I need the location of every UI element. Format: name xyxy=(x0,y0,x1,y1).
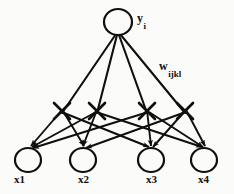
input-node-x1 xyxy=(15,148,41,172)
weight-subscript: ijkl xyxy=(168,69,181,79)
input-node-x4 xyxy=(191,148,217,172)
output-node-label: yi xyxy=(137,9,146,28)
weight-label: wijkl xyxy=(159,57,181,76)
output-symbol: y xyxy=(137,11,143,25)
input-label-x2: x2 xyxy=(78,174,89,185)
network-diagram-canvas xyxy=(0,0,234,194)
junction-x-marker-1 xyxy=(54,103,70,119)
output-node-y xyxy=(104,9,132,35)
junction-x-marker-4 xyxy=(177,103,193,119)
network-diagram-figure: yi wijkl x1 x2 x3 x4 xyxy=(0,0,234,194)
weight-symbol: w xyxy=(159,59,168,73)
input-label-x4: x4 xyxy=(198,174,209,185)
edge-j2-x1 xyxy=(32,112,96,147)
input-node-group xyxy=(15,148,217,172)
output-node-group xyxy=(104,9,132,35)
input-node-x3 xyxy=(138,148,164,172)
input-label-x3: x3 xyxy=(146,174,157,185)
input-node-x2 xyxy=(70,148,96,172)
edge-y-j3 xyxy=(119,35,147,113)
output-subscript: i xyxy=(144,21,147,31)
junction-x-marker-2 xyxy=(89,103,105,119)
input-label-x1: x1 xyxy=(14,174,25,185)
